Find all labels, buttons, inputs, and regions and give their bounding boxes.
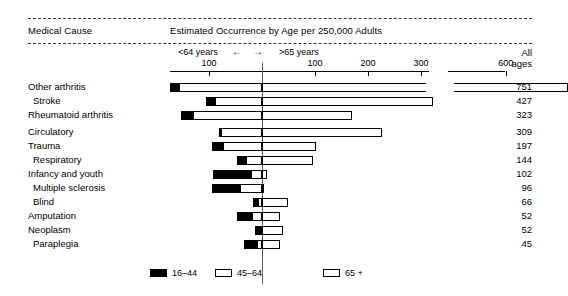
category-label: Respiratory [33, 154, 82, 165]
all-ages-header-line1: All [521, 47, 532, 58]
legend-item-16-44: 16–44 [150, 268, 197, 278]
bar-segment-45-64 [223, 142, 262, 151]
axis-far-600-label: 600 [486, 58, 526, 68]
bar-segment-65-plus [262, 111, 352, 120]
category-label: Circulatory [28, 126, 73, 137]
bar-segment-65-plus [262, 128, 382, 137]
bar-segment-16-44 [237, 156, 246, 165]
legend-swatch-icon-16-44 [150, 269, 167, 277]
axis-right-100-label: 100 [295, 58, 335, 68]
column-header-medical-cause: Medical Cause [28, 25, 92, 36]
bar-segment-16-44 [170, 83, 179, 92]
arrow-right-icon: → [253, 47, 263, 57]
bar-segment-45-64 [193, 111, 262, 120]
legend-label-65-plus: 65 + [345, 268, 363, 278]
bar-segment-16-44 [181, 111, 193, 120]
axis-right-200-tick [368, 71, 369, 76]
axis-right-100-tick [315, 71, 316, 76]
header-rule-top [28, 18, 532, 19]
column-header-occurrence: Estimated Occurrence by Age per 250,000 … [170, 25, 382, 36]
axis-left-100-tick [209, 71, 210, 76]
legend-item-45-64: 45–64 [215, 268, 262, 278]
category-label: Rheumatoid arthritis [28, 109, 113, 120]
legend-label-16-44: 16–44 [172, 268, 197, 278]
category-label: Blind [33, 196, 54, 207]
legend-label-45-64: 45–64 [237, 268, 262, 278]
all-ages-value: 96 [521, 182, 532, 193]
bar-segment-65-plus [262, 170, 267, 179]
bar-segment-45-64 [215, 97, 262, 106]
bar-segment-16-44 [213, 170, 252, 179]
legend-item-65-plus: 65 + [323, 268, 363, 278]
all-ages-value: 144 [516, 154, 532, 165]
bar-segment-65-plus [262, 156, 313, 165]
bar-segment-65-plus [262, 198, 288, 207]
all-ages-value: 309 [516, 126, 532, 137]
bar-segment-16-44 [237, 212, 252, 221]
axis-right-300-tick [421, 71, 422, 76]
bar-segment-45-64 [179, 83, 262, 92]
axis-far-600-tick [506, 71, 507, 76]
bar-segment-65-plus [262, 240, 280, 249]
all-ages-value: 323 [516, 109, 532, 120]
bar-segment-16-44 [244, 240, 257, 249]
axis-label-under-64: <64 years [178, 47, 218, 57]
all-ages-value: 427 [516, 95, 532, 106]
header-rule-bottom [28, 43, 532, 44]
all-ages-value: 751 [516, 81, 532, 92]
category-label: Amputation [28, 210, 76, 221]
bar-segment-16-44 [212, 184, 240, 193]
bar-segment-45-64 [240, 184, 262, 193]
bar-segment-65-plus [262, 142, 316, 151]
bar-segment-65-plus [262, 226, 283, 235]
category-label: Multiple sclerosis [33, 182, 105, 193]
axis-label-over-65: >65 years [279, 47, 319, 57]
category-label: Other arthritis [28, 81, 86, 92]
bar-segment-65-plus [262, 184, 264, 193]
all-ages-value: 102 [516, 168, 532, 179]
axis-right-300-label: 300 [401, 58, 441, 68]
bar-segment-16-44 [206, 97, 214, 106]
all-ages-value: 52 [521, 210, 532, 221]
all-ages-value: 52 [521, 224, 532, 235]
category-label: Trauma [28, 140, 60, 151]
axis-left-100-label: 100 [189, 58, 229, 68]
bar-segment-65-plus [262, 97, 433, 106]
bar-segment-45-64 [246, 156, 262, 165]
all-ages-value: 66 [521, 196, 532, 207]
legend-swatch-icon-65-plus [323, 269, 340, 277]
axis-right-200-label: 200 [348, 58, 388, 68]
legend-swatch-icon-45-64 [215, 269, 232, 277]
bar-segment-45-64 [251, 170, 262, 179]
category-label: Paraplegia [33, 238, 78, 249]
bar-segment-65-plus [262, 212, 280, 221]
axis-line-far [448, 71, 505, 72]
category-label: Infancy and youth [28, 168, 103, 179]
all-ages-value: 197 [516, 140, 532, 151]
axis-break-gap [426, 82, 454, 93]
category-label: Neoplasm [28, 224, 71, 235]
bar-segment-45-64 [252, 212, 262, 221]
bar-segment-16-44 [212, 142, 223, 151]
arrow-left-icon: ← [232, 47, 242, 57]
all-ages-value: 45 [521, 238, 532, 249]
bar-segment-45-64 [221, 128, 262, 137]
category-label: Stroke [33, 95, 60, 106]
legend-divider [262, 258, 263, 284]
